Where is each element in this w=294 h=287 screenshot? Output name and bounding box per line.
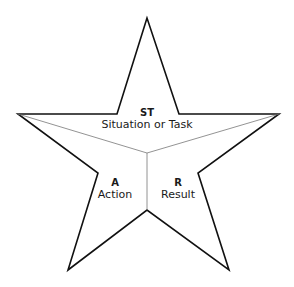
- section-r: R Result: [158, 177, 198, 201]
- section-st-abbr: ST: [97, 107, 197, 119]
- section-st: ST Situation or Task: [97, 107, 197, 131]
- section-a-label: Action: [95, 189, 135, 202]
- star-outline: [18, 18, 279, 270]
- section-r-label: Result: [158, 189, 198, 202]
- section-a-abbr: A: [95, 177, 135, 189]
- section-r-abbr: R: [158, 177, 198, 189]
- section-st-label: Situation or Task: [97, 119, 197, 132]
- section-a: A Action: [95, 177, 135, 201]
- star-diagram: [0, 0, 294, 287]
